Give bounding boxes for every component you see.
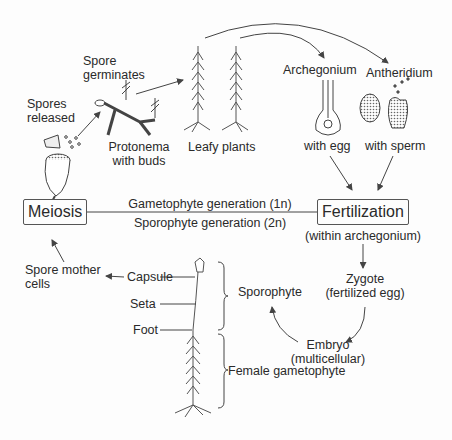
within-archegonium-label: (within archegonium)	[305, 229, 421, 243]
moss-life-cycle-diagram: Spore germinates Spores released Protone…	[0, 0, 452, 440]
female-gametophyte-brace	[218, 334, 228, 408]
zygote-line1: Zygote	[320, 272, 410, 286]
female-gametophyte-label: Female gametophyte	[228, 364, 345, 378]
seta-label: Seta	[130, 297, 156, 311]
foot-label: Foot	[133, 323, 158, 337]
antheridium-label: Antheridium	[366, 66, 433, 80]
sporophyte-generation-label: Sporophyte generation (2n)	[100, 216, 320, 230]
spore-germinates-label: Spore germinates	[83, 54, 145, 82]
embryo-label: Embryo (multicellular)	[283, 338, 373, 366]
archegonium-label: Archegonium	[283, 63, 357, 77]
spores-released-line2: released	[27, 111, 75, 125]
with-egg-label: with egg	[304, 139, 351, 153]
embryo-line1: Embryo	[283, 338, 373, 352]
arrow-spore-mother-to-meiosis	[52, 240, 64, 262]
gametophyte-generation-label: Gametophyte generation (1n)	[100, 197, 320, 211]
protonema-line2: with buds	[104, 154, 174, 168]
zygote-line2: (fertilized egg)	[320, 286, 410, 300]
protonema-label: Protonema with buds	[104, 140, 174, 168]
arrow-spores-to-protonema	[78, 112, 100, 136]
zygote-label: Zygote (fertilized egg)	[320, 272, 410, 300]
spore-germinates-line1: Spore	[83, 54, 145, 68]
spore-mother-cells-line1: Spore mother	[25, 263, 101, 277]
protonema-illustration	[95, 80, 159, 135]
fertilization-box: Fertilization	[317, 199, 409, 225]
arrow-sperm-to-fertilization	[378, 156, 393, 190]
protonema-line1: Protonema	[104, 140, 174, 154]
spore-germinates-line2: germinates	[83, 68, 145, 82]
arrow-leafy-to-archegonium	[240, 33, 324, 58]
sporophyte-brace	[218, 262, 228, 330]
archegonium-illustration	[316, 80, 341, 135]
capsule-label: Capsule	[127, 270, 173, 284]
antheridium-illustration	[360, 78, 409, 128]
leafy-plants-label: Leafy plants	[188, 140, 255, 154]
arrow-egg-to-fertilization	[330, 156, 352, 190]
arrow-protonema-to-leafy	[136, 80, 183, 94]
spore-mother-cells-label: Spore mother cells	[25, 263, 101, 291]
arrow-capsule-to-spore-mother	[106, 276, 124, 277]
arrow-zygote-to-embryo	[346, 307, 365, 342]
spores-released-label: Spores released	[27, 97, 75, 125]
sporophyte-on-gametophyte-illustration	[175, 258, 211, 417]
spore-mother-cells-line2: cells	[25, 277, 101, 291]
sporophyte-label: Sporophyte	[238, 285, 302, 299]
spores-released-line1: Spores	[27, 97, 75, 111]
with-sperm-label: with sperm	[365, 139, 425, 153]
arrow-embryo-to-sporophyte	[272, 307, 298, 342]
meiosis-box: Meiosis	[23, 199, 87, 225]
leafy-plants-illustration	[184, 46, 248, 132]
